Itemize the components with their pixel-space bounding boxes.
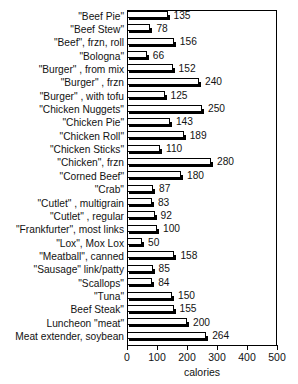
bar-body	[127, 251, 174, 258]
chart-rows: "Beef Pie"135"Beef Stew"78"Beef", frzn, …	[0, 10, 298, 346]
category-label: "Burger" , with tofu	[40, 91, 127, 103]
bar-body	[127, 158, 211, 165]
bar-value-label: 87	[159, 183, 170, 195]
chart-row: "Beef Pie"135	[0, 10, 298, 23]
bar-body	[127, 171, 181, 178]
bar	[127, 171, 183, 182]
category-label: "Beef", frzn, roll	[54, 37, 127, 49]
category-label: "Meatball", canned	[39, 251, 127, 263]
x-axis-tick-label: 200	[172, 351, 202, 363]
bar	[127, 91, 167, 102]
x-axis-tick-label: 0	[112, 351, 142, 363]
category-label: "Cutlet" , regular	[50, 211, 127, 223]
bar-value-label: 100	[163, 223, 180, 235]
category-label: "Chicken Sticks"	[50, 144, 127, 156]
bar-body	[127, 278, 152, 285]
bar	[127, 318, 189, 329]
chart-row: "Frankfurter", most links100	[0, 224, 298, 237]
bar-value-label: 66	[153, 50, 164, 62]
bar-value-label: 125	[171, 90, 188, 102]
bar	[127, 11, 170, 22]
category-label: "Burger" , frzn	[61, 77, 127, 89]
bar-body	[127, 238, 142, 245]
bar-body	[127, 78, 199, 85]
chart-row: "Chicken Pie"143	[0, 117, 298, 130]
bar-value-label: 200	[193, 317, 210, 329]
bar	[127, 292, 174, 303]
chart-row: Luncheon "meat"200	[0, 317, 298, 330]
chart-row: "Chicken Nuggets"250	[0, 104, 298, 117]
category-label: Meat extender, soybean	[15, 331, 127, 343]
bar-body	[127, 211, 155, 218]
bar-value-label: 158	[180, 250, 197, 262]
bar-value-label: 189	[190, 130, 207, 142]
chart-row: "Burger" , frzn240	[0, 77, 298, 90]
bar	[127, 305, 176, 316]
category-label: "Scallops"	[78, 278, 127, 290]
bar-body	[127, 91, 165, 98]
x-axis-tick	[127, 345, 128, 350]
bar	[127, 238, 144, 249]
chart-row: Meat extender, soybean264	[0, 331, 298, 344]
category-label: "Burger" , from mix	[39, 64, 127, 76]
bar	[127, 131, 186, 142]
bar-value-label: 156	[180, 36, 197, 48]
chart-row: "Crab"87	[0, 184, 298, 197]
category-label: "Cutlet" , multigrain	[38, 198, 128, 210]
chart-title	[112, 0, 287, 2]
chart-row: "Meatball", canned158	[0, 250, 298, 263]
bar-value-label: 143	[176, 116, 193, 128]
bar	[127, 158, 213, 169]
x-axis-tick-label: 500	[262, 351, 292, 363]
category-label: "Chicken Nuggets"	[39, 104, 127, 116]
bar-body	[127, 185, 153, 192]
bar-value-label: 50	[148, 237, 159, 249]
bar	[127, 211, 157, 222]
bar-body	[127, 51, 147, 58]
bar-body	[127, 64, 173, 71]
bar-value-label: 152	[179, 63, 196, 75]
bar-body	[127, 265, 153, 272]
bar-value-label: 180	[187, 170, 204, 182]
bar-body	[127, 198, 152, 205]
bar-body	[127, 38, 174, 45]
category-label: "Beef Stew"	[70, 24, 127, 36]
bar	[127, 332, 208, 343]
bar	[127, 105, 204, 116]
bar-body	[127, 318, 187, 325]
bar-body	[127, 131, 184, 138]
chart-row: "Scallops"84	[0, 277, 298, 290]
bar	[127, 78, 201, 89]
chart-row: "Chicken", frzn280	[0, 157, 298, 170]
bar-body	[127, 292, 172, 299]
x-axis-tick-label: 400	[232, 351, 262, 363]
category-label: "Tuna"	[94, 291, 127, 303]
chart-row: "Bologna"66	[0, 50, 298, 63]
bar-value-label: 155	[180, 303, 197, 315]
x-axis-tick	[157, 345, 158, 350]
bar	[127, 38, 176, 49]
bar-value-label: 135	[174, 10, 191, 22]
bar-value-label: 78	[156, 23, 167, 35]
bar-body	[127, 145, 160, 152]
bar-value-label: 280	[217, 156, 234, 168]
bar-value-label: 150	[178, 290, 195, 302]
x-axis-tick	[187, 345, 188, 350]
category-label: "Chicken", frzn	[57, 157, 127, 169]
bar-value-label: 240	[205, 76, 222, 88]
bar	[127, 118, 172, 129]
bar-value-label: 84	[158, 277, 169, 289]
chart-row: "Tuna"150	[0, 291, 298, 304]
bar-body	[127, 305, 174, 312]
category-label: "Chicken Pie"	[62, 117, 127, 129]
category-label: "Bologna"	[79, 51, 127, 63]
bar	[127, 265, 155, 276]
x-axis: 0100200300400500	[127, 345, 277, 384]
calories-bar-chart: "Beef Pie"135"Beef Stew"78"Beef", frzn, …	[0, 0, 298, 384]
x-axis-tick	[217, 345, 218, 350]
bar-body	[127, 24, 150, 31]
chart-row: "Beef", frzn, roll156	[0, 37, 298, 50]
category-label: "Corned Beef"	[60, 171, 127, 183]
bar	[127, 64, 175, 75]
bar-body	[127, 11, 168, 18]
